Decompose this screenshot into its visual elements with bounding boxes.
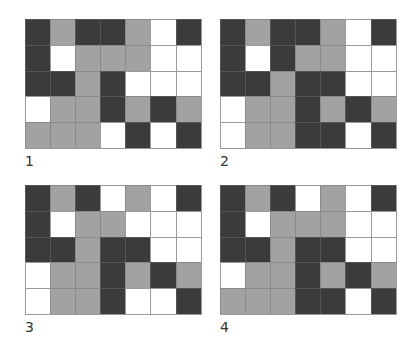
grid-cell xyxy=(75,262,100,288)
grid-cell xyxy=(245,211,270,237)
grid-cell xyxy=(125,122,150,148)
grid-cell xyxy=(295,71,320,97)
grid-cell xyxy=(100,237,125,263)
grid-cell xyxy=(320,96,345,122)
grid-cell xyxy=(176,211,201,237)
grid-cell xyxy=(150,96,175,122)
grid-cell xyxy=(245,237,270,263)
grid-cell xyxy=(345,262,370,288)
grid-cell xyxy=(25,211,50,237)
grid-cell xyxy=(100,19,125,45)
grid-cell xyxy=(295,211,320,237)
grid-cell xyxy=(50,96,75,122)
grid-cell xyxy=(176,96,201,122)
grid-cell xyxy=(220,71,245,97)
grid-cell xyxy=(320,45,345,71)
grid-cell xyxy=(125,185,150,211)
grid-cell xyxy=(371,262,396,288)
grid-cell xyxy=(176,185,201,211)
grid-cell xyxy=(320,262,345,288)
grid-cell xyxy=(100,122,125,148)
grid-cell xyxy=(50,237,75,263)
grid-cell xyxy=(270,122,295,148)
grid-cell xyxy=(320,288,345,314)
grid-cell xyxy=(220,288,245,314)
grid-cell xyxy=(270,96,295,122)
grid-cell xyxy=(320,237,345,263)
panel-label: 1 xyxy=(25,153,34,169)
grid-cell xyxy=(270,237,295,263)
grid-cell xyxy=(371,237,396,263)
grid-cell xyxy=(245,288,270,314)
grid-cell xyxy=(295,262,320,288)
grid-cell xyxy=(245,262,270,288)
grid-cell xyxy=(220,185,245,211)
grid-cell xyxy=(320,122,345,148)
grid-cell xyxy=(25,71,50,97)
grid-cell xyxy=(75,96,100,122)
grid-cell xyxy=(150,122,175,148)
grid-cell xyxy=(371,288,396,314)
grid-cell xyxy=(320,71,345,97)
grid-cell xyxy=(295,122,320,148)
grid-cell xyxy=(100,45,125,71)
grid-cell xyxy=(50,262,75,288)
grid-cell xyxy=(270,45,295,71)
grid-cell xyxy=(50,122,75,148)
grid-cell xyxy=(125,237,150,263)
grid-cell xyxy=(245,122,270,148)
grid-cell xyxy=(125,19,150,45)
grid-cell xyxy=(75,237,100,263)
grid-cell xyxy=(176,237,201,263)
grid-cell xyxy=(295,19,320,45)
grid-cell xyxy=(371,211,396,237)
panel-label: 3 xyxy=(25,319,34,335)
grid-cell xyxy=(270,185,295,211)
grid-cell xyxy=(245,96,270,122)
grid-cell xyxy=(75,19,100,45)
grid-cell xyxy=(176,262,201,288)
grid-cell xyxy=(176,71,201,97)
grid-cell xyxy=(100,288,125,314)
grid-cell xyxy=(270,288,295,314)
grid-cell xyxy=(371,122,396,148)
grid-cell xyxy=(220,211,245,237)
grid-cell xyxy=(125,45,150,71)
grid-cell xyxy=(25,237,50,263)
grid-cell xyxy=(176,288,201,314)
grid-cell xyxy=(50,45,75,71)
grid-cell xyxy=(245,185,270,211)
grid-cell xyxy=(295,45,320,71)
grid-cell xyxy=(75,288,100,314)
grid-cell xyxy=(270,71,295,97)
grid-cell xyxy=(75,71,100,97)
grid-cell xyxy=(345,122,370,148)
grid-cell xyxy=(345,71,370,97)
grid-cell xyxy=(220,237,245,263)
grid-cell xyxy=(345,45,370,71)
grid-cell xyxy=(295,237,320,263)
grid-cell xyxy=(245,45,270,71)
grid-cell xyxy=(125,211,150,237)
grid-cell xyxy=(150,45,175,71)
grid-cell xyxy=(220,45,245,71)
grid-cell xyxy=(345,288,370,314)
grid-cell xyxy=(50,185,75,211)
grid-cell xyxy=(75,211,100,237)
panel-label: 2 xyxy=(220,153,229,169)
grid-cell xyxy=(245,71,270,97)
grid-cell xyxy=(50,71,75,97)
grid-cell xyxy=(25,45,50,71)
pattern-grid xyxy=(220,185,397,315)
grid-cell xyxy=(295,288,320,314)
grid-cell xyxy=(220,96,245,122)
grid-cell xyxy=(371,19,396,45)
grid-cell xyxy=(220,262,245,288)
panel-3: 3 xyxy=(25,185,202,315)
pattern-grid xyxy=(220,19,397,149)
grid-cell xyxy=(100,211,125,237)
grid-cell xyxy=(150,262,175,288)
panel-4: 4 xyxy=(220,185,397,315)
grid-cell xyxy=(75,122,100,148)
panel-2: 2 xyxy=(220,19,397,149)
